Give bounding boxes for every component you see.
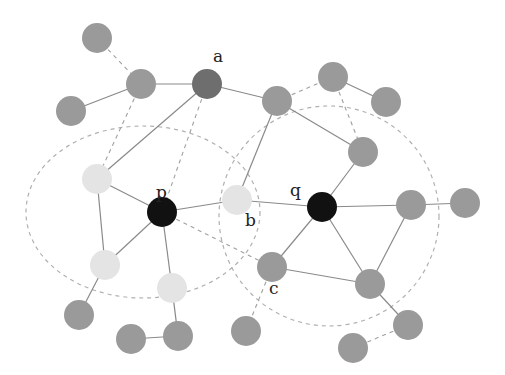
edge-n5-b xyxy=(237,101,277,200)
node-l3 xyxy=(157,273,187,303)
label-c: c xyxy=(269,278,279,298)
node-n23 xyxy=(338,333,368,363)
node-n15 xyxy=(355,269,385,299)
node-n18 xyxy=(64,300,94,330)
node-q xyxy=(307,192,337,222)
diagram-svg: a p q b c xyxy=(0,0,505,375)
node-n2 xyxy=(56,96,86,126)
node-l2 xyxy=(90,250,120,280)
label-b: b xyxy=(245,210,256,230)
node-n20 xyxy=(163,321,193,351)
node-n5 xyxy=(262,86,292,116)
node-n1 xyxy=(82,23,112,53)
node-n19 xyxy=(116,324,146,354)
nodes-layer xyxy=(56,23,480,363)
node-n12 xyxy=(396,190,426,220)
node-n13 xyxy=(450,188,480,218)
network-diagram: a p q b c xyxy=(0,0,505,375)
node-l1 xyxy=(82,164,112,194)
node-a xyxy=(192,69,222,99)
label-a: a xyxy=(213,46,223,66)
label-p: p xyxy=(156,182,167,202)
node-n7 xyxy=(371,87,401,117)
region-p xyxy=(26,126,260,298)
node-n22 xyxy=(393,310,423,340)
node-n3 xyxy=(126,69,156,99)
node-n8 xyxy=(348,137,378,167)
label-q: q xyxy=(290,180,301,200)
node-n21 xyxy=(231,316,261,346)
node-n6 xyxy=(318,62,348,92)
